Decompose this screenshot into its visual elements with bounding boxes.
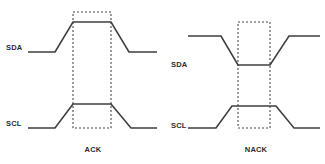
ack-sda-waveform — [28, 22, 157, 52]
ack-scl-label: SCL — [6, 119, 22, 128]
ack-scl-waveform — [28, 104, 157, 128]
ack-sda-label: SDA — [6, 43, 23, 52]
panel-ack: SDA SCL ACK — [6, 12, 157, 154]
nack-caption: NACK — [245, 145, 268, 154]
ack-marker-window — [73, 12, 111, 128]
nack-sda-label: SDA — [171, 60, 188, 69]
nack-scl-label: SCL — [171, 121, 187, 130]
nack-sda-waveform — [188, 36, 320, 65]
ack-caption: ACK — [85, 145, 102, 154]
timing-diagram-canvas: SDA SCL ACK SDA SCL NACK — [0, 0, 325, 164]
nack-marker-window — [238, 22, 270, 128]
i2c-timing-diagram: SDA SCL ACK SDA SCL NACK — [0, 0, 325, 164]
panel-nack: SDA SCL NACK — [171, 22, 320, 154]
nack-scl-waveform — [188, 106, 320, 128]
